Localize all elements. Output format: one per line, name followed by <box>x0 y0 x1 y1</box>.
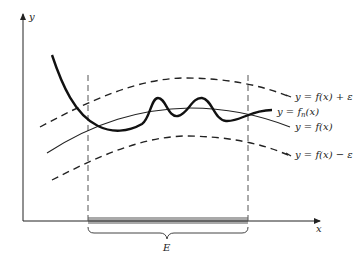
upper-bound-label: y = f(x) + ε <box>294 91 353 102</box>
uniform-convergence-diagram: y x y = f(x) + ε y = fn(x) y = f(x) y = … <box>0 0 359 270</box>
f-label: y = f(x) <box>294 121 333 132</box>
x-axis-label: x <box>316 223 322 234</box>
lower-bound-label: y = f(x) − ε <box>294 149 353 160</box>
set-e-brace <box>88 227 248 239</box>
set-e-label: E <box>162 242 171 253</box>
fn-curve <box>52 55 272 131</box>
y-axis-label: y <box>28 11 35 22</box>
fn-label: y = fn(x) <box>276 106 319 119</box>
